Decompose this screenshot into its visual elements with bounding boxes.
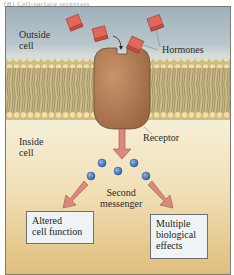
- inside-cell-label: Insidecell: [19, 136, 43, 158]
- right-arrow-icon: [148, 181, 173, 208]
- second-messenger-label: Secondmessenger: [100, 187, 142, 209]
- hormone-icons: [66, 14, 164, 53]
- second-messenger-icons: [87, 159, 150, 180]
- left-arrow-icon: [63, 181, 88, 208]
- outcome-multiple-biological-effects: Multiplebiologicaleffects: [150, 214, 208, 259]
- receptor-label: Receptor: [143, 132, 179, 143]
- outside-cell-label: Outsidecell: [19, 29, 50, 51]
- receptor-icon: [94, 48, 150, 129]
- outcome-altered-cell-function: Alteredcell function: [26, 211, 94, 244]
- down-arrow-icon: [113, 129, 131, 159]
- hormones-label: Hormones: [162, 44, 204, 55]
- diagram-frame: Outsidecell Hormones Receptor Insidecell…: [5, 6, 231, 275]
